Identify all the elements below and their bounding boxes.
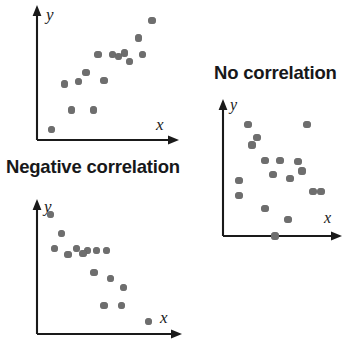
data-point	[276, 157, 283, 164]
data-point	[47, 211, 54, 218]
data-point	[61, 80, 68, 87]
data-point	[68, 106, 75, 113]
data-point	[51, 245, 58, 252]
data-point	[90, 269, 97, 276]
data-point	[253, 134, 260, 141]
data-point	[94, 51, 101, 58]
data-point	[135, 34, 142, 41]
data-point	[271, 232, 278, 239]
y-axis-label: y	[46, 6, 54, 23]
x-axis-arrowhead	[168, 136, 179, 145]
data-point	[303, 121, 310, 128]
data-point	[244, 121, 251, 128]
data-point	[261, 157, 268, 164]
x-axis-label: x	[160, 309, 168, 326]
x-axis-label: x	[156, 116, 164, 133]
negative-correlation-title: Negative correlation	[6, 158, 180, 177]
y-axis-arrowhead	[219, 99, 228, 110]
data-point	[248, 141, 255, 148]
data-point	[126, 58, 133, 65]
data-point	[235, 177, 242, 184]
y-axis-arrowhead	[33, 199, 42, 210]
data-point	[148, 17, 155, 24]
data-point	[90, 106, 97, 113]
positive-correlation-plot: y x	[28, 2, 180, 148]
data-point	[284, 216, 291, 223]
x-axis-arrowhead	[171, 330, 182, 339]
no-correlation-plot: y x	[214, 92, 346, 242]
y-axis-arrowhead	[33, 5, 42, 16]
data-point	[100, 302, 107, 309]
no-correlation-title: No correlation	[214, 64, 337, 83]
data-point	[235, 192, 242, 199]
data-point	[79, 250, 86, 257]
correlation-figure: No correlation Negative correlation y x …	[0, 0, 348, 350]
data-point	[82, 69, 89, 76]
data-point	[309, 188, 316, 195]
data-point	[261, 205, 268, 212]
data-point	[298, 167, 305, 174]
y-axis-label: y	[230, 97, 237, 113]
data-point	[317, 188, 324, 195]
data-point	[286, 175, 293, 182]
negative-correlation-plot: y x	[28, 192, 186, 342]
x-axis-arrowhead	[331, 232, 342, 241]
data-point	[139, 51, 146, 58]
x-axis-label: x	[324, 210, 331, 226]
data-point	[100, 77, 107, 84]
data-point	[64, 251, 71, 258]
